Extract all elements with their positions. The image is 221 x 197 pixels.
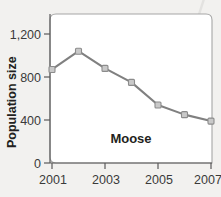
x-tick-label-2005: 2005 (145, 173, 173, 187)
y-tick-label-0: 0 (34, 157, 41, 171)
y-tick-label-1200: 1,200 (10, 28, 41, 42)
y-tick-label-400: 400 (20, 114, 41, 128)
data-point-2006 (182, 112, 188, 118)
data-point-2005 (155, 102, 161, 108)
x-tick-label-2003: 2003 (92, 173, 120, 187)
x-tick-label-2001: 2001 (39, 173, 67, 187)
data-point-2001 (49, 66, 55, 72)
series-label-moose: Moose (110, 131, 151, 146)
x-tick-label-2007: 2007 (194, 173, 221, 187)
data-point-2004 (129, 79, 135, 85)
y-tick-label-800: 800 (20, 71, 41, 85)
data-point-2007 (208, 118, 214, 124)
data-point-2002 (76, 48, 82, 54)
data-point-2003 (102, 65, 108, 71)
chart-canvas: 1,200 800 400 0 2001 2003 2005 2007 Popu… (0, 0, 221, 197)
population-size-line-chart: 1,200 800 400 0 2001 2003 2005 2007 Popu… (0, 0, 221, 197)
y-axis-title: Population size (5, 56, 19, 148)
